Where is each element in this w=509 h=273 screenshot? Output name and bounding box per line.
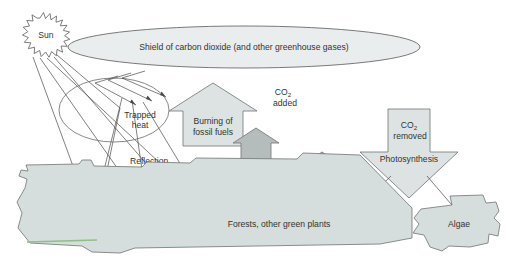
trapped-heat-label-1: Trapped <box>124 110 156 120</box>
trapped-heat-label-2: heat <box>132 120 149 130</box>
trapped-heat-arrows <box>95 71 166 105</box>
photosynthesis-label: Photosynthesis <box>380 154 438 164</box>
fossil-fuels-label-1: Burning of <box>193 116 233 126</box>
greenhouse-shield: Shield of carbon dioxide (and other gree… <box>68 26 420 68</box>
greenhouse-effect-diagram: Sun Shield of carbon dioxide (and other … <box>0 0 509 273</box>
bounce-arrow-1 <box>95 83 136 105</box>
sun-starburst-icon: Sun <box>23 13 70 58</box>
arrowhead-icon <box>130 100 136 106</box>
co2-added-label-2: added <box>273 98 297 108</box>
arrowhead-icon <box>160 92 166 98</box>
forests-plants-label: Forests, other green plants <box>228 219 331 229</box>
trapped-heat-region: Trapped heat <box>59 78 169 142</box>
algae-label: Algae <box>448 219 470 229</box>
land-mass-forests: Forests, other green plants <box>17 153 412 253</box>
fossil-fuels-label-2: fossil fuels <box>193 127 233 137</box>
diagram-canvas: Sun Shield of carbon dioxide (and other … <box>0 0 509 273</box>
co2-added-label: CO2 added <box>273 87 297 108</box>
sun-label: Sun <box>38 30 54 40</box>
algae-mass: Algae <box>413 195 500 251</box>
bounce-arrow-2 <box>108 80 152 101</box>
co2-removed-label-2: removed <box>393 131 427 141</box>
bounce-arrow-3 <box>122 78 166 97</box>
shield-label: Shield of carbon dioxide (and other gree… <box>139 42 348 52</box>
co2-added-text: CO2 <box>275 87 292 98</box>
arrowhead-icon <box>146 96 152 102</box>
land-polygon <box>17 153 412 253</box>
